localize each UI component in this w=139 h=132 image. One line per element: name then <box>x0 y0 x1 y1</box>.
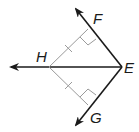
label-E: E <box>124 59 135 76</box>
label-H: H <box>36 48 47 65</box>
label-G: G <box>90 109 102 126</box>
right-angle-mark-upper <box>80 37 96 45</box>
right-angle-mark-lower <box>80 89 96 97</box>
geometry-diagram: F E H G <box>0 0 139 132</box>
label-F: F <box>93 10 103 27</box>
